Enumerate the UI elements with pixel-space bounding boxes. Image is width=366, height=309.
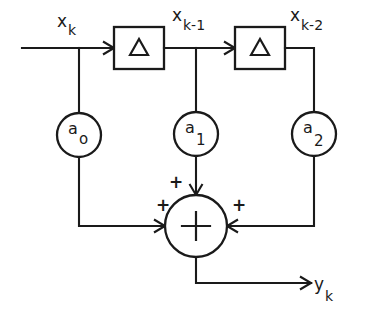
label-input-base: x (57, 11, 67, 31)
coefficient-label-a0-sub: o (79, 130, 88, 148)
a0-to-summer-wire (79, 157, 165, 226)
label-output-base: y (314, 274, 324, 294)
delay-block-1 (114, 27, 164, 69)
delay-block-2 (235, 27, 285, 69)
input-sign-right: + (232, 195, 246, 215)
label-input-sub: k (68, 22, 77, 38)
coefficient-label-a0-base: a (68, 119, 78, 138)
delay2-out-wire (285, 48, 314, 112)
coefficient-label-a1-sub: 1 (196, 131, 206, 149)
coefficient-label-a1-base: a (185, 118, 195, 137)
label-output-sub: k (325, 288, 334, 304)
fir-filter-diagram: a o a 1 a 2 + + + x k x (0, 0, 366, 309)
label-delay1-out-base: x (172, 5, 182, 25)
coefficient-label-a2-sub: 2 (314, 132, 324, 150)
label-delay2-out-base: x (290, 5, 300, 25)
input-sign-left: + (156, 195, 170, 215)
a2-to-summer-wire (227, 156, 314, 226)
output-wire (196, 257, 311, 283)
diagram-canvas: a o a 1 a 2 + + + x k x (0, 0, 366, 309)
label-delay2-out-sub: k-2 (301, 17, 323, 33)
coefficient-label-a2-base: a (303, 118, 313, 137)
label-delay1-out-sub: k-1 (183, 17, 205, 33)
input-sign-top: + (169, 172, 183, 192)
